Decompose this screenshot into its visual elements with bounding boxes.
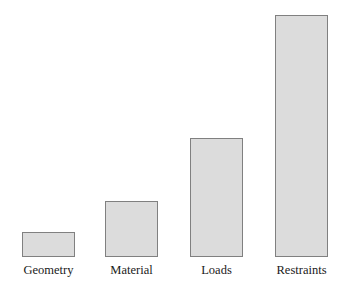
x-axis-label-restraints: Restraints — [253, 263, 350, 278]
x-axis-label-loads: Loads — [168, 263, 265, 278]
bar-group-geometry — [22, 0, 75, 257]
bar-geometry — [22, 232, 75, 257]
bar-loads — [190, 138, 243, 257]
plot-area — [0, 0, 350, 257]
bar-restraints — [275, 15, 328, 257]
x-axis-label-material: Material — [83, 263, 180, 278]
bar-chart-figure: Geometry Material Loads Restraints — [0, 0, 350, 292]
bar-group-restraints — [275, 0, 328, 257]
bar-group-loads — [190, 0, 243, 257]
bar-material — [105, 201, 158, 257]
bar-group-material — [105, 0, 158, 257]
x-axis-labels: Geometry Material Loads Restraints — [0, 257, 350, 292]
